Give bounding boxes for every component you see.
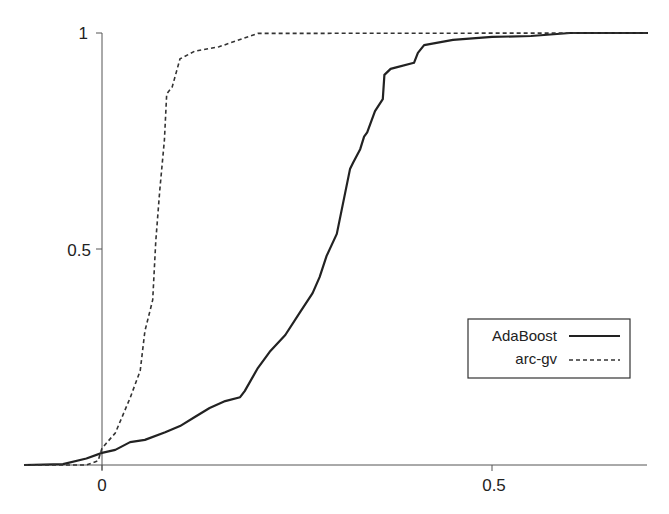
cdf-chart: 1 0.5 0 0.5 AdaBoost arc-gv xyxy=(0,0,669,514)
legend: AdaBoost arc-gv xyxy=(468,319,630,378)
legend-label-arc-gv: arc-gv xyxy=(515,350,557,367)
arc-gv-line xyxy=(24,33,648,465)
legend-label-adaboost: AdaBoost xyxy=(492,327,558,344)
x-tick-label-0: 0 xyxy=(97,476,106,495)
x-tick-label-0.5: 0.5 xyxy=(482,476,506,495)
adaboost-line xyxy=(24,33,648,465)
y-tick-label-0.5: 0.5 xyxy=(67,241,91,260)
y-tick-label-1: 1 xyxy=(79,24,88,43)
